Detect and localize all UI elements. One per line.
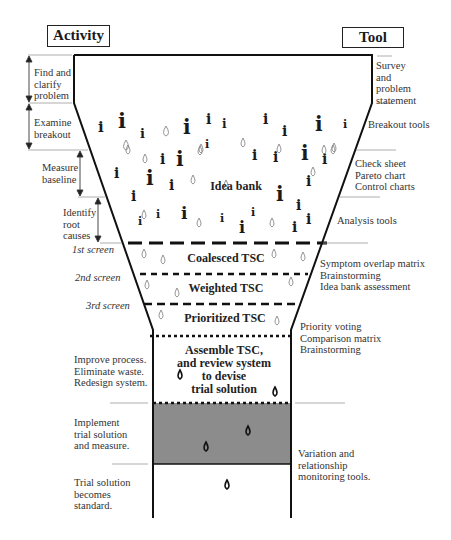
svg-text:i: i	[343, 118, 347, 131]
activity-implement-trial: Implement trial solution and measure.	[74, 417, 129, 452]
tool-breakout: Breakout tools	[368, 119, 430, 131]
svg-text:i: i	[263, 111, 268, 127]
tool-variation-monitoring: Variation and relationship monitoring to…	[298, 448, 370, 483]
activity-improve-process: Improve process. Eliminate waste. Redesi…	[74, 354, 148, 389]
svg-text:i: i	[222, 117, 227, 131]
second-screen-label: 2nd screen	[75, 272, 120, 283]
svg-text:i: i	[306, 211, 311, 227]
svg-text:i: i	[183, 115, 191, 139]
idea-bank-label: Idea bank	[196, 180, 276, 193]
svg-text:i: i	[169, 177, 174, 193]
svg-text:i: i	[98, 118, 104, 136]
svg-text:i: i	[206, 111, 211, 127]
weighted-tsc-label: Weighted TSC	[176, 282, 276, 295]
implement-band	[153, 403, 291, 464]
svg-text:i: i	[282, 123, 287, 139]
svg-text:i: i	[181, 203, 188, 223]
svg-text:i: i	[315, 112, 323, 136]
svg-text:i: i	[276, 182, 284, 206]
svg-text:i: i	[138, 215, 142, 228]
svg-text:i: i	[160, 151, 165, 167]
assemble-tsc-label: Assemble TSC, and review system to devis…	[164, 344, 284, 396]
tool-priority-comparison: Priority voting Comparison matrix Brains…	[300, 321, 381, 356]
svg-text:i: i	[131, 188, 136, 204]
svg-text:i: i	[306, 173, 311, 189]
svg-text:i: i	[251, 206, 255, 219]
activity-find-clarify: Find and clarify problem	[34, 67, 71, 102]
svg-text:i: i	[220, 212, 224, 225]
first-screen-label: 1st screen	[72, 244, 114, 255]
tool-analysis: Analysis tools	[337, 215, 397, 227]
svg-text:i: i	[176, 147, 184, 171]
svg-text:i: i	[296, 197, 301, 213]
activity-trial-standard: Trial solution becomes standard.	[74, 477, 131, 512]
svg-text:i: i	[301, 141, 309, 165]
activity-identify-root-causes: Identify root causes	[63, 207, 96, 242]
svg-text:i: i	[156, 208, 160, 221]
svg-text:i: i	[140, 126, 145, 141]
third-screen-label: 3rd screen	[86, 300, 130, 311]
svg-text:i: i	[146, 166, 154, 190]
svg-text:i: i	[252, 147, 257, 163]
activity-header: Activity	[47, 25, 110, 47]
tool-check-pareto-control: Check sheet Pareto chart Control charts	[355, 158, 415, 193]
tool-header: Tool	[342, 27, 404, 48]
activity-measure-baseline: Measure baseline	[42, 162, 78, 185]
svg-text:i: i	[239, 218, 245, 237]
tool-symptom-brainstorm: Symptom overlap matrix Brainstorming Ide…	[320, 258, 425, 293]
svg-text:i: i	[118, 108, 126, 133]
svg-text:i: i	[205, 138, 209, 151]
tool-survey: Survey and problem statement	[376, 60, 416, 106]
coalesced-tsc-label: Coalesced TSC	[176, 252, 276, 265]
idea-icons: i i i i i i i i i i i i i i i i i i i i …	[98, 108, 347, 237]
svg-text:i: i	[114, 165, 119, 181]
prioritized-tsc-label: Prioritized TSC	[170, 312, 280, 325]
activity-examine-breakout: Examine breakout	[34, 117, 71, 140]
svg-text:i: i	[292, 219, 297, 235]
